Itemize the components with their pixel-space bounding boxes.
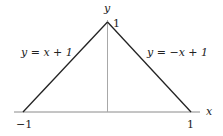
triangle-chart: y 1 x −1 1 y = x + 1 y = −x + 1 bbox=[0, 0, 223, 136]
line-y-eq-neg-x-plus-1 bbox=[108, 22, 192, 112]
y-tick-1: 1 bbox=[113, 17, 120, 30]
line-y-eq-x-plus-1 bbox=[23, 22, 108, 112]
x-axis-label: x bbox=[206, 105, 213, 118]
left-line-label: y = x + 1 bbox=[20, 46, 73, 59]
right-line-label: y = −x + 1 bbox=[146, 46, 208, 59]
x-tick-pos1: 1 bbox=[187, 118, 194, 131]
x-tick-neg1: −1 bbox=[16, 118, 32, 131]
y-axis-label: y bbox=[103, 2, 111, 15]
